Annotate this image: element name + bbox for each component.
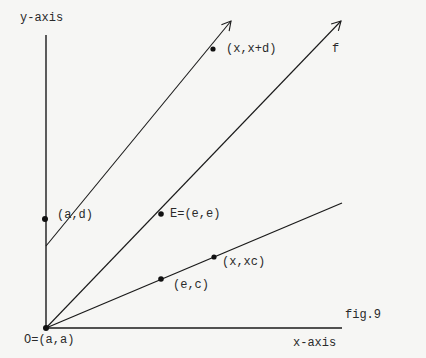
line-f-label: f bbox=[332, 42, 339, 56]
x-axis-label: x-axis bbox=[293, 336, 336, 350]
point-ec bbox=[158, 276, 164, 282]
label-ad: (a,d) bbox=[57, 208, 93, 222]
label-xxc: (x,xc) bbox=[222, 255, 265, 269]
figure-caption: fig.9 bbox=[345, 308, 381, 322]
point-xxc bbox=[211, 254, 216, 259]
y-axis-label: y-axis bbox=[20, 11, 63, 25]
point-xxd bbox=[210, 46, 215, 51]
figure-canvas: y-axis x-axis fig.9 f O=(a,a) (a,d) (x,x… bbox=[0, 0, 426, 358]
label-origin: O=(a,a) bbox=[24, 333, 74, 347]
label-ec: (e,c) bbox=[173, 278, 209, 292]
point-ad bbox=[42, 216, 48, 222]
label-E: E=(e,e) bbox=[170, 207, 220, 221]
point-E bbox=[158, 211, 164, 217]
point-origin bbox=[43, 325, 49, 331]
label-xxd: (x,x+d) bbox=[226, 42, 276, 56]
